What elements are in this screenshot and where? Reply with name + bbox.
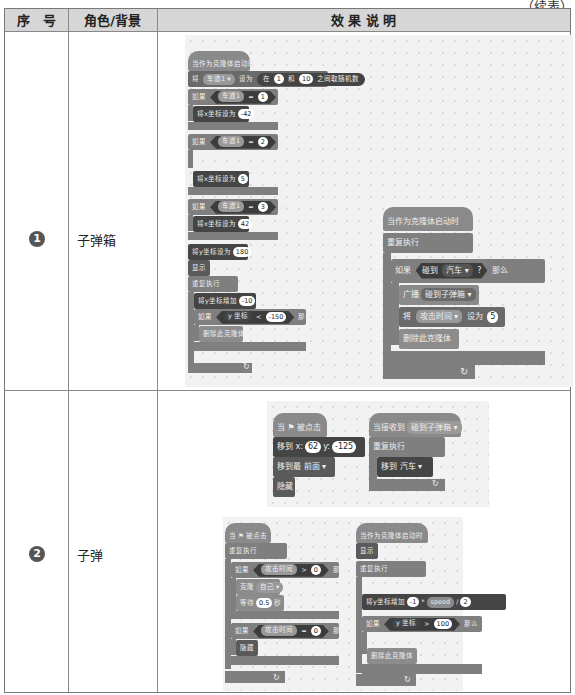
- forever-block: 重复执行: [383, 233, 473, 253]
- variable-dropdown: 车道1 ▾: [203, 74, 234, 85]
- delete-clone-block: 删除此克隆体: [399, 329, 459, 349]
- when-receive-hat-block: 当接收到碰到子弹箱 ▾: [369, 413, 461, 437]
- forever-block: 重复执行: [188, 276, 238, 292]
- delete-clone-block: 删除此克隆体: [367, 648, 417, 664]
- set-x-block: 将x坐标设为5: [193, 171, 249, 187]
- header-role: 角色/背景: [68, 9, 157, 32]
- go-to-front-block: 移到最 前面 ▾: [273, 457, 335, 477]
- loop-arrow-icon: ↻: [432, 479, 439, 488]
- table-header: 序 号 角色/背景 效 果 说 明: [5, 9, 570, 32]
- if-touching-block: 如果 碰到 汽车 ▾ ? 那么: [391, 259, 545, 283]
- if-block: 如果 车道1 = 1 那么: [188, 89, 278, 105]
- go-to-xy-block: 移到 x:62y:-125: [273, 437, 365, 457]
- header-effect: 效 果 说 明: [157, 9, 570, 32]
- show-block: 显示: [188, 260, 210, 276]
- forever-block: 重复执行: [356, 561, 426, 577]
- forever-block: 重复执行: [369, 437, 445, 457]
- if-block: 如果 车道1 = 2 那么: [188, 134, 278, 150]
- hat-block: 当作为克隆体启动时: [383, 207, 473, 231]
- if-block: 如果 车道1 = 3 那么: [188, 199, 278, 215]
- if-block: 如果 攻击时间 = 0 那么: [231, 623, 339, 639]
- hide-block: 隐藏: [273, 477, 295, 497]
- column-divider: [157, 9, 158, 692]
- green-flag-hat-block: 当 ⚑ 被点击: [225, 523, 271, 543]
- show-block: 显示: [356, 543, 378, 559]
- set-y-block: 将y坐标设为180: [188, 244, 248, 260]
- if-block: 如果 y 坐标 > 100 那么: [362, 616, 482, 632]
- wait-block: 等待0.5秒: [236, 595, 284, 611]
- hat-block: 当作为克隆体启动时: [188, 51, 250, 71]
- loop-arrow-icon: ↻: [273, 673, 280, 682]
- hide-block: 隐藏: [236, 640, 258, 656]
- loop-arrow-icon: ↻: [404, 675, 411, 684]
- effects-table: 序 号 角色/背景 效 果 说 明 1 子弹箱 当作为克隆体启动时 将 车道1 …: [4, 8, 571, 693]
- if-block: 如果 y 坐标 < -150 那么: [194, 309, 306, 325]
- clone-block: 克隆自己 ▾: [236, 579, 280, 595]
- change-y-block: 将y坐标增加-10: [194, 293, 256, 309]
- set-x-block: 将x坐标设为-42: [193, 106, 249, 122]
- change-y-block: 将y坐标增加-1*speed/2: [362, 594, 506, 610]
- set-attack-time-block: 将 攻击时间 ▾ 设为 5: [399, 307, 505, 327]
- row-number-badge: 1: [29, 231, 45, 247]
- row-divider: [5, 390, 570, 391]
- broadcast-block: 广播碰到子弹箱 ▾: [399, 285, 479, 305]
- row-role-label: 子弹: [77, 545, 103, 564]
- loop-arrow-icon: ↻: [460, 366, 468, 377]
- row-number-badge: 2: [29, 546, 45, 562]
- set-variable-block: 将 车道1 ▾ 设为 在 1 和 10 之间取随机数: [188, 71, 328, 87]
- loop-arrow-icon: ↻: [243, 362, 250, 371]
- forever-block: 重复执行: [225, 543, 287, 559]
- row-role-label: 子弹箱: [77, 230, 116, 249]
- go-to-car-block: 移到 汽车 ▾: [377, 457, 433, 477]
- hat-block: 当作为克隆体启动时: [356, 523, 428, 543]
- green-flag-hat-block: 当 ⚑ 被点击: [273, 413, 327, 437]
- column-divider: [68, 9, 69, 692]
- delete-clone-block: 删除此克隆体: [199, 326, 243, 342]
- set-x-block: 将x坐标设为42: [193, 216, 249, 232]
- header-number: 序 号: [5, 9, 68, 32]
- if-block: 如果 攻击时间 > 0 那么: [231, 562, 339, 578]
